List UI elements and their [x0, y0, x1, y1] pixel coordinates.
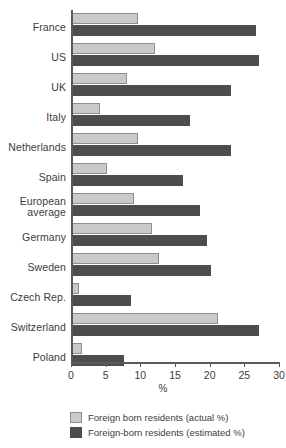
- x-tick: [244, 362, 245, 367]
- category-label: France: [0, 12, 66, 42]
- x-tick: [279, 362, 280, 367]
- bar-row: Spain: [0, 162, 286, 192]
- bar-group: [72, 282, 286, 312]
- bar-row: Switzerland: [0, 312, 286, 342]
- x-tick: [140, 362, 141, 367]
- category-label: Netherlands: [0, 132, 66, 162]
- category-label: Germany: [0, 222, 66, 252]
- bar-estimated: [72, 325, 259, 336]
- bar-row: Germany: [0, 222, 286, 252]
- legend-item: Foreign-born residents (estimated %): [70, 425, 245, 440]
- bar-actual: [72, 103, 100, 114]
- category-label: US: [0, 42, 66, 72]
- bar-row: Netherlands: [0, 132, 286, 162]
- grouped-bar-chart: FranceUSUKItalyNetherlandsSpainEuropeana…: [0, 0, 286, 448]
- bar-row: Italy: [0, 102, 286, 132]
- x-tick: [71, 362, 72, 367]
- x-tick-label: 5: [91, 369, 121, 381]
- legend-swatch-actual: [70, 412, 82, 423]
- bar-estimated: [72, 265, 211, 276]
- bar-group: [72, 42, 286, 72]
- bar-row: UK: [0, 72, 286, 102]
- bar-group: [72, 192, 286, 222]
- x-tick: [106, 362, 107, 367]
- plot-area: FranceUSUKItalyNetherlandsSpainEuropeana…: [0, 0, 286, 404]
- category-label: Sweden: [0, 252, 66, 282]
- category-label: Poland: [0, 342, 66, 372]
- bar-estimated: [72, 25, 256, 36]
- x-tick: [210, 362, 211, 367]
- category-label: UK: [0, 72, 66, 102]
- bar-actual: [72, 253, 159, 264]
- x-tick-label: 25: [229, 369, 259, 381]
- bar-group: [72, 102, 286, 132]
- bar-estimated: [72, 175, 183, 186]
- x-axis-title-text: %: [159, 383, 168, 394]
- x-tick-label: 30: [264, 369, 286, 381]
- bar-row: Poland: [0, 342, 286, 372]
- category-label: Italy: [0, 102, 66, 132]
- bar-estimated: [72, 235, 207, 246]
- bar-actual: [72, 343, 82, 354]
- y-axis-line: [71, 10, 73, 362]
- bar-actual: [72, 283, 79, 294]
- category-label: Europeanaverage: [0, 192, 66, 222]
- legend-item: Foreign born residents (actual %): [70, 410, 245, 425]
- bar-actual: [72, 223, 152, 234]
- x-tick-label: 10: [125, 369, 155, 381]
- bar-group: [72, 312, 286, 342]
- x-axis-title: %: [0, 383, 286, 394]
- bar-group: [72, 72, 286, 102]
- bar-actual: [72, 193, 134, 204]
- bar-group: [72, 12, 286, 42]
- bar-estimated: [72, 145, 231, 156]
- bar-group: [72, 162, 286, 192]
- bar-estimated: [72, 115, 190, 126]
- bar-row: Europeanaverage: [0, 192, 286, 222]
- x-tick-label: 20: [195, 369, 225, 381]
- bar-row: France: [0, 12, 286, 42]
- bar-rows: FranceUSUKItalyNetherlandsSpainEuropeana…: [0, 12, 286, 372]
- bar-estimated: [72, 355, 124, 366]
- x-tick-label: 15: [160, 369, 190, 381]
- bar-actual: [72, 133, 138, 144]
- chart-legend: Foreign born residents (actual %)Foreign…: [70, 410, 245, 440]
- bar-estimated: [72, 55, 259, 66]
- category-label: Czech Rep.: [0, 282, 66, 312]
- bar-row: Sweden: [0, 252, 286, 282]
- bar-group: [72, 252, 286, 282]
- category-label: Spain: [0, 162, 66, 192]
- legend-label: Foreign born residents (actual %): [88, 412, 228, 423]
- bar-row: US: [0, 42, 286, 72]
- category-label: Switzerland: [0, 312, 66, 342]
- x-tick-label: 0: [56, 369, 86, 381]
- bar-estimated: [72, 85, 231, 96]
- bar-actual: [72, 313, 218, 324]
- bar-group: [72, 342, 286, 372]
- legend-swatch-estimated: [70, 427, 82, 438]
- bar-row: Czech Rep.: [0, 282, 286, 312]
- bar-group: [72, 222, 286, 252]
- x-tick: [175, 362, 176, 367]
- legend-label: Foreign-born residents (estimated %): [88, 427, 245, 438]
- bar-actual: [72, 13, 138, 24]
- bar-group: [72, 132, 286, 162]
- bar-estimated: [72, 295, 131, 306]
- bar-actual: [72, 163, 107, 174]
- bar-actual: [72, 73, 127, 84]
- bar-estimated: [72, 205, 200, 216]
- bar-actual: [72, 43, 155, 54]
